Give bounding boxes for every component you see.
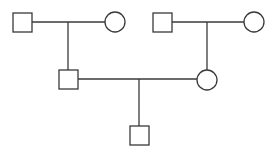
gen1-female-left-circle-icon: [105, 12, 125, 32]
gen1-male-right-square-icon: [153, 13, 172, 32]
gen1-female-right-circle-icon: [244, 12, 264, 32]
gen3-male-square-icon: [130, 126, 149, 145]
gen2-male-square-icon: [59, 70, 78, 89]
gen1-male-left-square-icon: [13, 13, 32, 32]
pedigree-diagram: [0, 0, 278, 151]
pedigree-canvas: [0, 0, 278, 151]
gen2-female-circle-icon: [197, 70, 217, 90]
